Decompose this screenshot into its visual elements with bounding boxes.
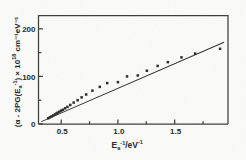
y-tick-label: 100 [22, 73, 36, 82]
data-point [85, 93, 88, 96]
x-axis-label: Ea-1/eV-1 [112, 139, 143, 151]
y-tick-label: 0 [31, 120, 36, 129]
y-axis-label: (α - 2PG(Ea-1) × 1018 cm⁻¹eV⁻¹ [11, 16, 23, 127]
data-point [117, 81, 120, 84]
x-tick-label: 1.0 [113, 127, 125, 136]
data-point [66, 106, 69, 109]
scatter-plot: 01002000.51.01.5Ea-1/eV-1(α - 2PG(Ea-1) … [0, 0, 246, 160]
y-tick-label: 200 [22, 25, 36, 34]
x-tick-label: 0.5 [57, 127, 69, 136]
data-point [126, 75, 128, 78]
figure-container: 01002000.51.01.5Ea-1/eV-1(α - 2PG(Ea-1) … [0, 0, 246, 160]
x-tick-label: 1.5 [170, 127, 182, 136]
data-point [76, 99, 79, 102]
data-point [99, 86, 102, 89]
data-point [194, 52, 197, 55]
data-point [106, 82, 109, 85]
data-point [80, 96, 83, 99]
data-point [219, 48, 222, 51]
data-point [146, 69, 149, 72]
data-point [64, 107, 67, 110]
data-point [72, 101, 75, 104]
data-point [156, 65, 159, 68]
data-point [167, 61, 170, 64]
data-point [69, 104, 72, 107]
data-point [180, 56, 183, 59]
fit-line [41, 42, 224, 121]
data-point-group [47, 48, 221, 120]
data-point [62, 108, 65, 111]
data-point [137, 74, 140, 77]
data-point [91, 89, 94, 92]
